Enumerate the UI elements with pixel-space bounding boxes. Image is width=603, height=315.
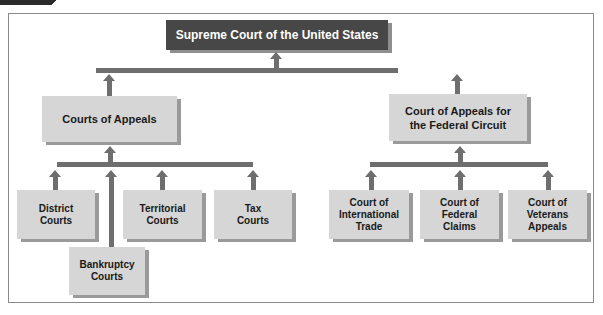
connector [369, 176, 374, 190]
arrow-up-icon [454, 170, 466, 177]
arrow-up-icon [270, 52, 282, 59]
connector [53, 176, 58, 190]
connector [251, 176, 256, 190]
header-tab-corner [50, 0, 58, 5]
connector [109, 176, 114, 247]
federal-circuit-box: Court of Appeals for the Federal Circuit [389, 94, 527, 141]
supreme-court-box: Supreme Court of the United States [166, 20, 388, 50]
header-tab [0, 0, 50, 5]
international-trade-box: Court of International Trade [329, 190, 409, 239]
veterans-appeals-box: Court of Veterans Appeals [508, 190, 587, 239]
connector [546, 176, 551, 190]
arrow-up-icon [105, 170, 117, 177]
arrow-up-icon [542, 170, 554, 177]
arrow-up-icon [454, 146, 466, 153]
district-courts-box: District Courts [17, 190, 95, 239]
federal-claims-box: Court of Federal Claims [420, 190, 499, 239]
bankruptcy-courts-box: Bankruptcy Courts [69, 247, 145, 295]
tax-courts-box: Tax Courts [214, 190, 292, 239]
territorial-courts-box: Territorial Courts [123, 190, 202, 239]
connector [458, 176, 463, 190]
connector-bar [96, 68, 398, 73]
connector [455, 80, 460, 94]
connector-bar [57, 162, 253, 167]
connector-bar [370, 162, 548, 167]
arrow-up-icon [451, 74, 463, 81]
arrow-up-icon [247, 170, 259, 177]
connector [160, 176, 165, 190]
connector [107, 80, 112, 96]
courts-of-appeals-box: Courts of Appeals [42, 96, 177, 142]
arrow-up-icon [49, 170, 61, 177]
arrow-up-icon [103, 74, 115, 81]
arrow-up-icon [156, 170, 168, 177]
arrow-up-icon [365, 170, 377, 177]
arrow-up-icon [104, 146, 116, 153]
